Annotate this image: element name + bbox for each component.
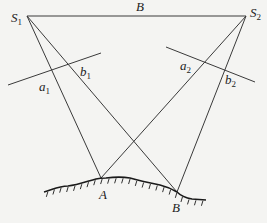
ground-hatch-mark — [156, 185, 158, 190]
ground-hatch-mark — [101, 179, 103, 184]
label-baseline: B — [136, 0, 144, 14]
ground-hatch-mark — [67, 187, 69, 192]
ground-hatch-mark — [135, 181, 137, 186]
ground-hatch-mark — [94, 180, 96, 185]
ground-hatch-mark — [60, 188, 62, 193]
ground-hatch-mark — [74, 186, 76, 191]
ground-hatch-mark — [188, 199, 190, 204]
ground-hatch-mark — [181, 197, 183, 202]
ground-hatch-mark — [129, 179, 131, 184]
ground-hatch-mark — [80, 184, 82, 189]
ground-hatch-mark — [53, 190, 55, 195]
ground-hatch-mark — [142, 183, 144, 188]
label-ground-b: B — [172, 200, 180, 215]
ray-s1-b — [27, 16, 177, 192]
label-ground-a: A — [98, 187, 107, 202]
label-a1: a1 — [39, 79, 50, 96]
ray-s1-a — [27, 16, 101, 178]
ray-s2-b — [177, 16, 246, 192]
stereo-diagram: S1 S2 B a1 b1 a2 b2 A B — [0, 0, 267, 223]
ground-hatch-mark — [201, 201, 203, 206]
ground-hatch-mark — [169, 190, 171, 195]
label-a2: a2 — [180, 58, 191, 75]
ground-hatch-mark — [87, 182, 89, 187]
label-s2: S2 — [250, 5, 261, 22]
ground-hatch-mark — [115, 178, 117, 183]
ground-hatch-mark — [149, 184, 151, 189]
label-s1: S1 — [11, 10, 22, 27]
label-b2: b2 — [225, 72, 236, 89]
ground-hatch-mark — [108, 179, 110, 184]
ray-s2-a — [101, 16, 246, 178]
ground-hatch-mark — [163, 187, 165, 192]
ground-hatch-mark — [122, 178, 124, 183]
ground-hatch-mark — [175, 193, 177, 198]
ground-hatch-mark — [194, 200, 196, 205]
label-b1: b1 — [80, 64, 91, 81]
ground-hatch-mark — [46, 192, 48, 197]
